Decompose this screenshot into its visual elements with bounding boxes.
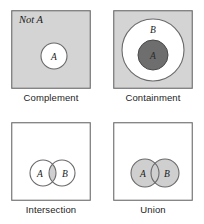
circle-b-label: B <box>164 169 170 179</box>
panel-containment: B A Containment <box>102 0 204 112</box>
circle-a-label: A <box>36 169 43 179</box>
intersection-diagram: A B <box>11 122 91 201</box>
universe-box <box>12 123 91 201</box>
caption-union: Union <box>102 204 204 215</box>
panel-complement: Not A A Complement <box>0 0 102 112</box>
complement-diagram: Not A A <box>11 10 91 89</box>
caption-intersection: Intersection <box>0 204 102 215</box>
circle-a-label: A <box>149 51 156 61</box>
circle-b-label: B <box>150 25 156 35</box>
not-a-label: Not A <box>18 14 44 25</box>
panel-union: A B Union <box>102 112 204 224</box>
circle-a-label: A <box>50 52 57 62</box>
panel-intersection: A B Intersection <box>0 112 102 224</box>
caption-containment: Containment <box>102 92 204 103</box>
circle-a-label: A <box>139 169 146 179</box>
containment-diagram: B A <box>113 10 193 89</box>
union-diagram: A B <box>113 122 193 201</box>
caption-complement: Complement <box>0 92 102 103</box>
set-operations-figure: Not A A Complement B A Containment <box>0 0 204 224</box>
circle-b-label: B <box>62 169 68 179</box>
